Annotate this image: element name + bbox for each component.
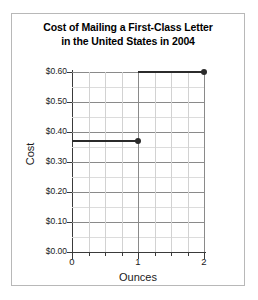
y-axis-tick-label: $0.40 [46, 127, 67, 136]
y-axis-tick-major [67, 102, 72, 103]
chart-title-line-1: Cost of Mailing a First-Class Letter [11, 20, 245, 34]
y-axis-tick-label: $0.20 [46, 187, 67, 196]
y-axis-tick-label: $0.50 [46, 97, 67, 106]
y-axis-tick-label: $0.30 [46, 157, 67, 166]
y-axis-tick-label: $0.60 [46, 67, 67, 76]
y-axis-tick-major [67, 222, 72, 223]
data-step-segment [72, 140, 138, 142]
gridline-vertical-minor [171, 72, 172, 252]
gridline-vertical-minor [105, 72, 106, 252]
y-axis-tick-label: $0.00 [46, 247, 67, 256]
chart-title: Cost of Mailing a First-Class Letter in … [11, 20, 245, 48]
chart-screenshot: Cost of Mailing a First-Class Letter in … [0, 0, 258, 300]
gridline-vertical-major [204, 72, 205, 252]
x-axis-tick-label: 2 [194, 256, 214, 267]
data-step-segment [138, 71, 204, 73]
y-axis-tick-major [67, 192, 72, 193]
gridline-vertical-minor [89, 72, 90, 252]
y-axis-tick-major [67, 72, 72, 73]
gridline-vertical-minor [188, 72, 189, 252]
x-axis-tick-labels: 012 [72, 256, 204, 270]
x-axis-title: Ounces [72, 271, 204, 283]
y-axis-tick-major [67, 162, 72, 163]
data-point-marker [201, 69, 207, 75]
chart-title-line-2: in the United States in 2004 [11, 34, 245, 48]
x-axis-tick-label: 1 [128, 256, 148, 267]
gridline-vertical-minor [122, 72, 123, 252]
plot-area [72, 72, 204, 252]
gridline-vertical-minor [155, 72, 156, 252]
x-axis-tick-label: 0 [62, 256, 82, 267]
y-axis-title: Cost [24, 134, 36, 174]
y-axis-tick-label: $0.10 [46, 217, 67, 226]
data-point-marker [135, 138, 141, 144]
y-axis-tick-major [67, 132, 72, 133]
gridline-vertical-major [138, 72, 139, 252]
y-axis-tick-major [67, 252, 72, 253]
